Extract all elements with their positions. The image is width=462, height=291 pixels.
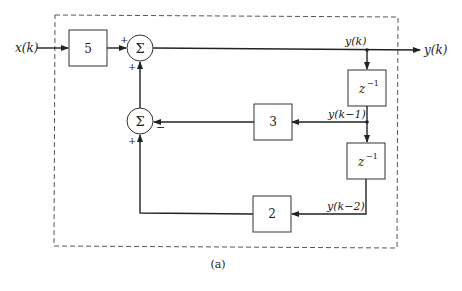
signal-yk: y(k): [344, 35, 366, 48]
delay-block-2: [347, 143, 385, 179]
output-label: y(k): [423, 43, 448, 57]
delay-block-1: [348, 70, 386, 106]
block-diagram: x(k) 5 Σ + + y(k) y(k) z −1 y(k−1) 3 z −…: [0, 0, 462, 291]
gain-block-5-label: 5: [84, 42, 92, 56]
signal-yk2: y(k−2): [326, 200, 365, 213]
output-line: [153, 48, 420, 50]
delay1-z: z: [358, 82, 366, 96]
signal-yk1: y(k−1): [327, 108, 366, 121]
sum2-minus: −: [156, 121, 165, 134]
summer-1-symbol: Σ: [135, 41, 144, 56]
delay2-z: z: [357, 155, 365, 169]
gain-block-2-label: 2: [268, 207, 276, 221]
sum1-plus-left: +: [120, 34, 128, 45]
sum2-plus-bottom: +: [128, 135, 136, 146]
input-label: x(k): [15, 41, 39, 55]
caption: (a): [210, 258, 225, 271]
summer-2-symbol: Σ: [135, 114, 144, 129]
gain-block-3-label: 3: [269, 115, 277, 129]
sum1-plus-bottom: +: [128, 61, 136, 72]
delay1-exp: −1: [367, 79, 379, 88]
delay2-exp: −1: [366, 152, 378, 161]
